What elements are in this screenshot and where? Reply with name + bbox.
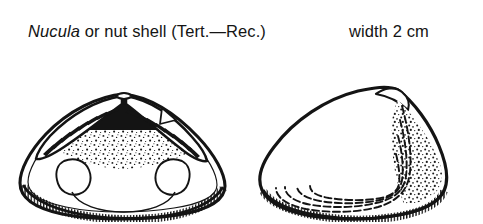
exterior-valve-illustration — [248, 44, 476, 222]
caption-remainder: or nut shell (Tert.—Rec.) — [80, 22, 266, 40]
genus-name: Nucula — [28, 22, 80, 40]
figure-caption-row: Nucula or nut shell (Tert.—Rec.) width 2… — [0, 16, 483, 46]
posterior-adductor-scar — [155, 159, 189, 194]
anterior-adductor-scar — [56, 159, 90, 194]
figure-caption: Nucula or nut shell (Tert.—Rec.) — [28, 16, 266, 46]
figure-root: Nucula or nut shell (Tert.—Rec.) width 2… — [0, 0, 483, 224]
interior-valve-illustration — [12, 44, 240, 222]
scale-note: width 2 cm — [349, 16, 429, 46]
